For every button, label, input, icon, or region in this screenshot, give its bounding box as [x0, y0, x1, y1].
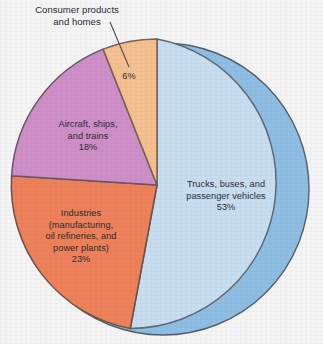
slice-label-consumer-products-percent: 6% [108, 71, 150, 82]
slice-label-trucks-buses: Trucks, buses, and passenger vehicles 53… [166, 168, 286, 225]
slice-label-industries-percent: 23% [18, 254, 144, 265]
pie-chart: Consumer products and homes 6% Aircraft,… [0, 0, 323, 344]
slice-label-industries-text: Industries (manufacturing, oil refinerie… [46, 208, 117, 252]
slice-label-trucks-percent: 53% [166, 202, 286, 213]
slice-label-trucks-text: Trucks, buses, and passenger vehicles [186, 179, 266, 200]
slice-label-aircraft-text: Aircraft, ships, and trains [58, 119, 117, 140]
slice-callout-label-consumer-products: Consumer products and homes [12, 4, 142, 28]
slice-label-aircraft-percent: 18% [32, 142, 144, 153]
slice-label-industries: Industries (manufacturing, oil refinerie… [18, 197, 144, 277]
slice-label-aircraft-ships-trains: Aircraft, ships, and trains 18% [32, 108, 144, 165]
